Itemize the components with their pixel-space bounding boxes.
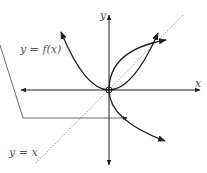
y-axis-label: y xyxy=(100,9,106,22)
identity-line xyxy=(36,14,184,163)
identity-line-label: y = x xyxy=(9,146,38,159)
diagram-canvas: y x y = f(x) y = x xyxy=(0,0,207,173)
x-axis-label: x xyxy=(195,77,201,90)
function-label: y = f(x) xyxy=(20,43,61,56)
